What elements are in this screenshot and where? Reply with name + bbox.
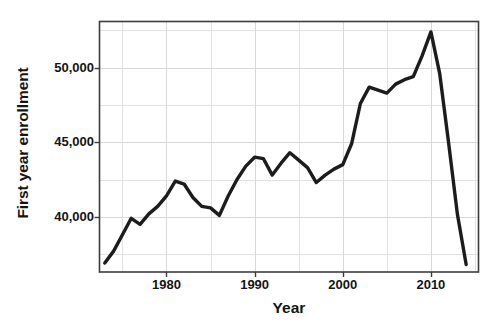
y-tick-label: 45,000 [54,134,94,149]
horizontal-major-gridlines [100,69,479,218]
y-tick-label: 50,000 [54,60,94,75]
x-tick-label: 2000 [328,277,357,292]
axis-tick-marks [95,69,432,278]
chart-figure: First year enrollment 40,000 45,000 50,0… [0,0,501,327]
x-tick-label: 1990 [240,277,269,292]
x-tick-label: 2010 [416,277,445,292]
x-axis-title: Year [99,299,479,317]
data-line-first-year-enrollment [105,32,466,265]
y-tick-label-group: 40,000 45,000 50,000 [38,0,94,327]
y-tick-label: 40,000 [54,209,94,224]
vertical-minor-gridlines [123,22,476,273]
x-tick-label: 1980 [152,277,181,292]
y-axis-title-text: First year enrollment [14,67,32,218]
